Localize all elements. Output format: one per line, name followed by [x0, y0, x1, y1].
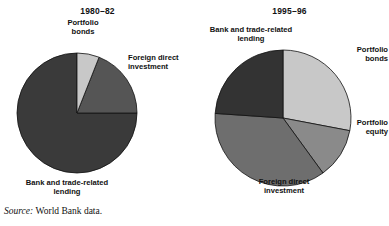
slice-label-bank-lending-1995-96: Bank and trade-related lending: [192, 25, 310, 43]
slice-label-portfolio-bonds-1980-82: Portfolio bonds: [48, 18, 118, 36]
slice-label-foreign-direct-investment-1980-82: Foreign direct investment: [128, 53, 194, 71]
chart-panel-1980-82: 1980–82 Portfolio bonds Foreign direct i…: [0, 0, 195, 200]
source-label: Source:: [4, 206, 33, 216]
slice-label-foreign-direct-investment-1995-96: Foreign direct investment: [228, 177, 340, 195]
pie-chart-figure: 1980–82 Portfolio bonds Foreign direct i…: [0, 0, 389, 226]
slice-label-portfolio-bonds-1995-96: Portfolio bonds: [330, 45, 388, 63]
slice-label-bank-lending-1980-82: Bank and trade-related lending: [2, 178, 132, 196]
chart-panel-1995-96: 1995–96 Bank and trade-related lending P…: [190, 0, 389, 200]
source-note: Source: World Bank data.: [4, 206, 102, 216]
slice-label-portfolio-equity-1995-96: Portfolio equity: [328, 118, 388, 136]
source-text: World Bank data.: [36, 206, 103, 216]
pie-slice-bank-lending: [215, 50, 283, 118]
